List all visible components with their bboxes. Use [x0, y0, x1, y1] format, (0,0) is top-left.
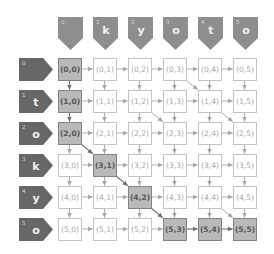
cell-label: (4,4) — [201, 193, 219, 202]
grid-cell: (3,0) — [59, 155, 82, 177]
row-header-char: y — [32, 192, 39, 205]
grid-cell: (3,4) — [199, 155, 222, 177]
grid-cell: (4,1) — [94, 187, 117, 209]
path-cell: (3,1) — [94, 155, 117, 177]
cell-label: (5,0) — [61, 225, 79, 234]
path-cell: (5,4) — [199, 219, 222, 241]
cell-label: (0,5) — [236, 65, 254, 74]
row-header-2: 2o — [19, 122, 53, 145]
grid-cell: (5,0) — [59, 219, 82, 241]
cell-label: (0,0) — [60, 65, 80, 74]
cell-label: (5,4) — [200, 225, 220, 234]
arrow-diagonal — [221, 112, 233, 122]
cell-label: (2,0) — [60, 129, 80, 138]
column-header-char: o — [242, 24, 250, 37]
row-header-index: 5 — [22, 220, 26, 226]
arrow-diagonal — [151, 208, 163, 218]
grid-cell: (2,4) — [199, 123, 222, 145]
column-header-4: 4t — [198, 17, 223, 50]
column-header-index: 5 — [236, 19, 240, 25]
path-cell: (5,5) — [234, 219, 257, 241]
grid-canvas: 01k2y3o4t5o01t2o3k4y5o (0,0)(0,1)(0,2)(0… — [0, 0, 274, 254]
cell-label: (2,3) — [166, 129, 184, 138]
column-header-2: 2y — [128, 17, 153, 50]
column-header-index: 1 — [96, 19, 100, 25]
cell-label: (5,5) — [235, 225, 255, 234]
path-cell: (1,0) — [59, 91, 82, 113]
row-header-char: o — [32, 224, 40, 237]
cell-label: (2,5) — [236, 129, 254, 138]
grid-cell: (5,2) — [129, 219, 152, 241]
column-header-index: 2 — [131, 19, 135, 25]
grid-cell: (4,0) — [59, 187, 82, 209]
cell-label: (4,0) — [61, 193, 79, 202]
row-header-index: 0 — [22, 60, 26, 66]
column-header-char: y — [137, 24, 144, 37]
cell-label: (2,1) — [96, 129, 114, 138]
row-header-index: 3 — [22, 156, 26, 162]
cell-label: (3,5) — [236, 161, 254, 170]
column-header-char: k — [102, 24, 110, 37]
grid-cell: (0,4) — [199, 59, 222, 81]
grid-cell: (1,3) — [164, 91, 187, 113]
grid-cell: (1,4) — [199, 91, 222, 113]
path-cell: (4,2) — [129, 187, 152, 209]
cell-label: (4,3) — [166, 193, 184, 202]
grid-cell: (1,1) — [94, 91, 117, 113]
cell-label: (0,4) — [201, 65, 219, 74]
row-header-0: 0 — [19, 58, 53, 81]
column-header-0: 0 — [58, 17, 83, 50]
grid-cell: (0,5) — [234, 59, 257, 81]
row-header-1: 1t — [19, 90, 53, 113]
column-header-5: 5o — [233, 17, 258, 50]
grid-cell: (4,5) — [234, 187, 257, 209]
grid-cell: (4,3) — [164, 187, 187, 209]
cell-label: (1,5) — [236, 97, 254, 106]
cell-label: (4,2) — [130, 193, 150, 202]
grid-cell: (3,5) — [234, 155, 257, 177]
row-header-index: 2 — [22, 124, 26, 130]
path-cell: (0,0) — [59, 59, 82, 81]
cell-label: (5,2) — [131, 225, 149, 234]
grid-cell: (2,5) — [234, 123, 257, 145]
grid-cell: (1,5) — [234, 91, 257, 113]
arrow-diagonal — [186, 80, 198, 90]
row-header-char: o — [32, 128, 40, 141]
row-header-char: k — [32, 160, 40, 173]
cell-label: (3,1) — [95, 161, 115, 170]
cell-label: (3,0) — [61, 161, 79, 170]
arrow-diagonal — [116, 176, 128, 186]
column-header-index: 3 — [166, 19, 170, 25]
cell-label: (3,2) — [131, 161, 149, 170]
grid-cell: (3,3) — [164, 155, 187, 177]
grid-cell: (2,2) — [129, 123, 152, 145]
column-header-char: t — [208, 24, 213, 37]
cell-label: (4,1) — [96, 193, 114, 202]
arrow-diagonal — [221, 208, 233, 218]
cell-label: (1,3) — [166, 97, 184, 106]
grid-cell: (3,2) — [129, 155, 152, 177]
cell-label: (5,3) — [165, 225, 185, 234]
grid-cell: (4,4) — [199, 187, 222, 209]
arrow-diagonal — [81, 144, 93, 154]
column-header-char: o — [172, 24, 180, 37]
cell-label: (5,1) — [96, 225, 114, 234]
alignment-grid-diagram: 01k2y3o4t5o01t2o3k4y5o (0,0)(0,1)(0,2)(0… — [0, 0, 274, 254]
cell-label: (0,3) — [166, 65, 184, 74]
grid-cell: (2,3) — [164, 123, 187, 145]
cell-label: (2,2) — [131, 129, 149, 138]
cell-label: (1,0) — [60, 97, 80, 106]
column-header-index: 0 — [61, 19, 65, 25]
cell-label: (3,3) — [166, 161, 184, 170]
path-cell: (2,0) — [59, 123, 82, 145]
grid-cell: (1,2) — [129, 91, 152, 113]
grid-cell: (0,3) — [164, 59, 187, 81]
cell-label: (2,4) — [201, 129, 219, 138]
row-header-4: 4y — [19, 186, 53, 209]
grid-cell: (5,1) — [94, 219, 117, 241]
row-header-index: 1 — [22, 92, 26, 98]
cell-label: (1,1) — [96, 97, 114, 106]
cell-label: (4,5) — [236, 193, 254, 202]
row-header-3: 3k — [19, 154, 53, 177]
arrow-diagonal — [151, 112, 163, 122]
